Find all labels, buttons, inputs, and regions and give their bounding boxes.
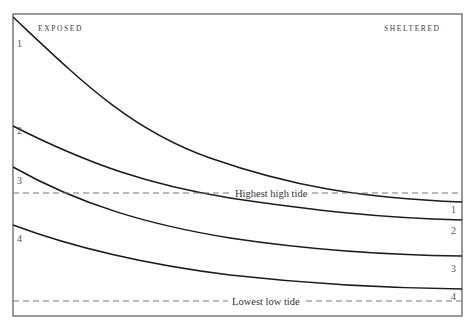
- lowest-tide-label: Lowest low tide: [232, 296, 300, 307]
- highest-tide-label: Highest high tide: [235, 188, 308, 199]
- zone-3-left-label: 3: [17, 175, 22, 186]
- zone-1-right-label: 1: [451, 204, 456, 215]
- zone-4-boundary-curve: [13, 225, 462, 289]
- zone-1-boundary-curve: [13, 17, 462, 202]
- zone-4-left-label: 4: [17, 233, 22, 244]
- zone-3-boundary-curve: [13, 167, 462, 256]
- sheltered-label: SHELTERED: [384, 24, 441, 33]
- zone-2-right-label: 2: [451, 225, 456, 236]
- zone-2-boundary-curve: [13, 126, 462, 220]
- zone-2-left-label: 2: [17, 125, 22, 136]
- exposed-label: EXPOSED: [38, 24, 83, 33]
- zone-4-right-label: 4: [451, 291, 456, 302]
- diagram-frame: [13, 14, 462, 316]
- shore-zonation-diagram: EXPOSED SHELTERED Highest high tide Lowe…: [0, 0, 475, 328]
- zone-3-right-label: 3: [451, 263, 456, 274]
- zone-1-left-label: 1: [17, 38, 22, 49]
